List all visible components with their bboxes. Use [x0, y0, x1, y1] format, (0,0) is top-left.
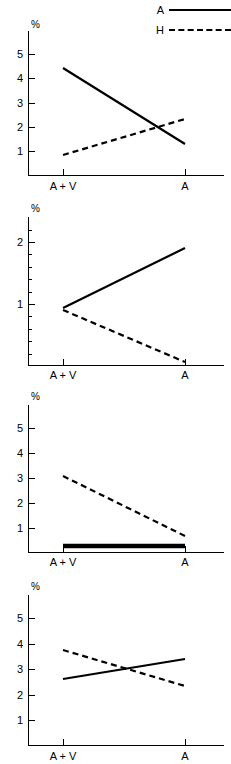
- series-line-h-3: [63, 476, 185, 536]
- figure-four-line-charts: A H % 5 4 3 2 1 A + V A: [0, 0, 231, 764]
- series-line-a-1: [63, 68, 185, 144]
- chart-panel-1: % 5 4 3 2 1 A + V A: [0, 0, 231, 196]
- series-line-h-1: [63, 119, 185, 155]
- chart-panel-2: % 2 1 A + V A: [0, 196, 231, 386]
- series-line-h-2: [63, 310, 185, 362]
- series-line-h-4: [63, 650, 185, 686]
- series-lines-2: [0, 196, 231, 386]
- series-lines-4: [0, 576, 231, 764]
- series-lines-3: [0, 386, 231, 576]
- chart-panel-3: % 5 4 3 2 1 A + V A: [0, 386, 231, 576]
- chart-panel-4: % 5 4 3 2 1 A + V A: [0, 576, 231, 764]
- series-line-a-2: [63, 248, 185, 308]
- series-lines-1: [0, 0, 231, 196]
